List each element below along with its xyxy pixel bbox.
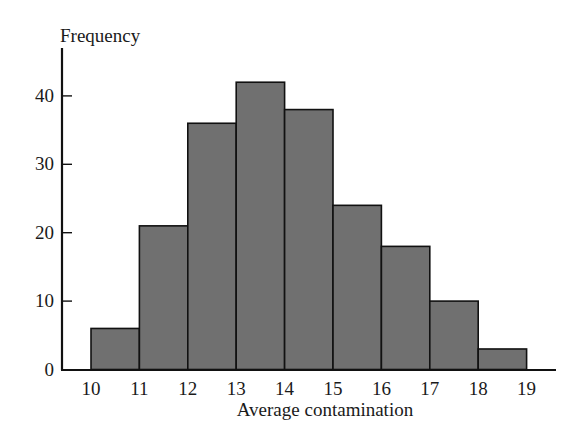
- x-tick-label: 11: [130, 378, 148, 399]
- x-tick-label: 18: [469, 378, 488, 399]
- histogram-bar: [188, 123, 236, 369]
- y-ticks: 010203040: [35, 85, 72, 380]
- x-tick-label: 10: [82, 378, 101, 399]
- x-ticks: 10111213141516171819: [82, 378, 537, 399]
- histogram-bar: [430, 301, 478, 369]
- histogram-bar: [285, 110, 333, 370]
- x-tick-label: 14: [275, 378, 295, 399]
- x-tick-label: 19: [517, 378, 536, 399]
- y-tick-label: 10: [35, 290, 54, 311]
- x-tick-label: 17: [420, 378, 439, 399]
- y-axis: 010203040: [35, 48, 72, 380]
- x-tick-label: 16: [372, 378, 391, 399]
- histogram-bar: [333, 205, 381, 369]
- x-tick-label: 12: [178, 378, 197, 399]
- y-tick-label: 30: [35, 153, 54, 174]
- x-tick-label: 15: [324, 378, 343, 399]
- histogram-bar: [91, 328, 139, 369]
- y-axis-title: Frequency: [60, 25, 141, 46]
- x-tick-label: 13: [227, 378, 246, 399]
- histogram-bars: [91, 82, 527, 369]
- histogram-bar: [381, 246, 429, 369]
- histogram-bar: [236, 82, 284, 369]
- x-axis: 10111213141516171819: [61, 370, 556, 399]
- y-tick-label: 0: [45, 359, 55, 380]
- y-tick-label: 40: [35, 85, 54, 106]
- histogram-bar: [478, 349, 526, 370]
- histogram-chart: 010203040 10111213141516171819 Frequency…: [0, 0, 587, 441]
- y-tick-label: 20: [35, 222, 54, 243]
- histogram-bar: [139, 226, 187, 370]
- x-axis-title: Average contamination: [237, 399, 414, 420]
